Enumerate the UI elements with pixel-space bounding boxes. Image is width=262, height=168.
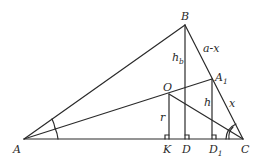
angle-arc-a-upper-icon — [52, 119, 55, 128]
label-k: K — [162, 143, 172, 156]
label-d: D — [181, 143, 191, 156]
label-x: x — [229, 97, 236, 110]
label-a: A — [12, 143, 21, 156]
label-c: C — [241, 143, 250, 156]
label-o: O — [163, 81, 172, 94]
bisector-aa1 — [24, 79, 212, 139]
angle-arc-a-lower-icon — [55, 128, 58, 139]
label-a-minus-x: a-x — [203, 42, 220, 55]
label-b: B — [180, 10, 189, 23]
triangle-diagram: A B C O K D D1 A1 hb a-x h x r — [0, 0, 262, 168]
label-r: r — [160, 111, 166, 124]
label-h: h — [204, 96, 211, 109]
label-a1: A1 — [214, 71, 228, 86]
label-hb: hb — [172, 51, 184, 66]
label-d1: D1 — [208, 143, 223, 158]
